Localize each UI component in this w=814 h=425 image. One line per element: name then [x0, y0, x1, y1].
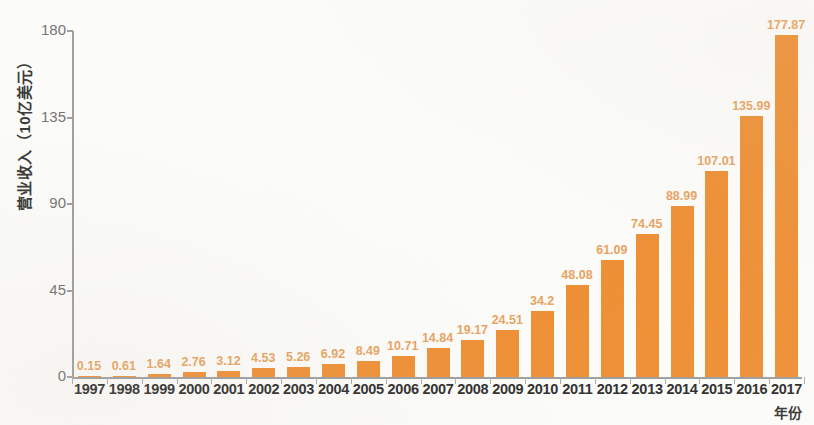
- bar-value-label: 177.87: [764, 18, 808, 32]
- bar[interactable]: [461, 340, 484, 377]
- bar-group[interactable]: 5.26: [281, 31, 315, 377]
- bar-value-label: 107.01: [694, 154, 738, 168]
- bar-group[interactable]: 1.64: [142, 31, 176, 377]
- bar[interactable]: [252, 368, 275, 377]
- bar-group[interactable]: 135.99: [734, 31, 768, 377]
- y-tick-label: 90: [20, 194, 66, 211]
- bar-group[interactable]: 6.92: [316, 31, 350, 377]
- bar-group[interactable]: 0.61: [107, 31, 141, 377]
- y-axis-title: 营业收入（10亿美元）: [13, 18, 34, 248]
- bar[interactable]: [322, 364, 345, 377]
- bar[interactable]: [287, 367, 310, 377]
- bar-group[interactable]: 88.99: [665, 31, 699, 377]
- bar[interactable]: [531, 311, 554, 377]
- x-axis-line: [72, 377, 802, 379]
- bar-group[interactable]: 48.08: [560, 31, 594, 377]
- bar[interactable]: [217, 371, 240, 377]
- bar[interactable]: [740, 116, 763, 377]
- bar-value-label: 74.45: [625, 217, 669, 231]
- bar-value-label: 61.09: [590, 243, 634, 257]
- bar-value-label: 24.51: [485, 313, 529, 327]
- plot-area: 0.150.611.642.763.124.535.266.928.4910.7…: [72, 31, 804, 377]
- bar-group[interactable]: 74.45: [630, 31, 664, 377]
- y-tick-label: 0: [20, 367, 66, 384]
- bar-group[interactable]: 4.53: [246, 31, 280, 377]
- bar-group[interactable]: 177.87: [769, 31, 803, 377]
- bar[interactable]: [392, 356, 415, 377]
- bar-group[interactable]: 24.51: [490, 31, 524, 377]
- bar-value-label: 88.99: [660, 189, 704, 203]
- x-axis-title: 年份: [774, 402, 802, 422]
- bar[interactable]: [705, 171, 728, 377]
- bar[interactable]: [636, 234, 659, 377]
- bar-value-label: 34.2: [520, 294, 564, 308]
- bar[interactable]: [601, 260, 624, 377]
- bar-group[interactable]: 107.01: [699, 31, 733, 377]
- x-tick-mark: [804, 377, 805, 384]
- bar[interactable]: [671, 206, 694, 377]
- bar[interactable]: [78, 376, 101, 377]
- bar[interactable]: [113, 376, 136, 377]
- bar-value-label: 48.08: [555, 268, 599, 282]
- bar[interactable]: [183, 372, 206, 377]
- bar[interactable]: [148, 374, 171, 377]
- bar-group[interactable]: 10.71: [386, 31, 420, 377]
- bar[interactable]: [357, 361, 380, 377]
- bar-chart: 营业收入（10亿美元） 04590135180 0.150.611.642.76…: [0, 0, 814, 425]
- bar-group[interactable]: 61.09: [595, 31, 629, 377]
- bar-value-label: 135.99: [729, 99, 773, 113]
- bar-group[interactable]: 0.15: [72, 31, 106, 377]
- bar-group[interactable]: 8.49: [351, 31, 385, 377]
- bar[interactable]: [775, 35, 798, 377]
- bar[interactable]: [427, 348, 450, 377]
- bar[interactable]: [566, 285, 589, 377]
- bar-group[interactable]: 3.12: [211, 31, 245, 377]
- y-tick-label: 135: [20, 108, 66, 125]
- bar-group[interactable]: 2.76: [177, 31, 211, 377]
- y-tick-label: 45: [20, 281, 66, 298]
- y-tick-label: 180: [20, 21, 66, 38]
- bar[interactable]: [496, 330, 519, 377]
- bar-group[interactable]: 34.2: [525, 31, 559, 377]
- x-tick-label: 2017: [766, 381, 808, 397]
